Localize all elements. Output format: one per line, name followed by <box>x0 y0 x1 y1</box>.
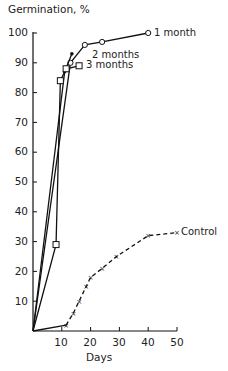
y-tick-label: 20 <box>4 266 28 277</box>
cross-marker-icon: × <box>174 229 180 237</box>
x-axis-label: Days <box>86 352 112 363</box>
y-tick-label: 40 <box>4 206 28 217</box>
circle-marker-icon <box>82 42 87 47</box>
cross-marker-icon: × <box>114 253 120 261</box>
cross-marker-icon: × <box>99 265 105 273</box>
square-marker-icon <box>76 63 82 69</box>
x-tick-label: 10 <box>51 337 71 348</box>
y-tick-label: 50 <box>4 176 28 187</box>
x-tick-label: 40 <box>138 337 158 348</box>
y-tick-label: 10 <box>4 296 28 307</box>
y-tick-label: 30 <box>4 236 28 247</box>
cross-marker-icon: × <box>88 274 94 282</box>
cross-marker-icon: × <box>70 310 76 318</box>
series-label-3-months: 3 months <box>86 60 133 70</box>
series-label-control: Control <box>181 227 217 237</box>
dot-marker-icon <box>70 52 74 56</box>
series-label-1-month: 1 month <box>154 28 196 38</box>
germination-chart: ××××××××× Germination, % 100 90 80 70 60… <box>0 0 228 371</box>
y-tick-label: 70 <box>4 117 28 128</box>
cross-marker-icon: × <box>83 283 89 291</box>
y-tick-label: 90 <box>4 57 28 68</box>
square-marker-icon <box>57 78 63 84</box>
square-marker-icon <box>63 66 69 72</box>
circle-marker-icon <box>146 30 151 35</box>
series-line-control <box>66 233 177 325</box>
x-tick-label: 30 <box>109 337 129 348</box>
y-tick-label: 80 <box>4 87 28 98</box>
cross-marker-icon: × <box>76 298 82 306</box>
x-tick-label: 50 <box>167 337 187 348</box>
series-line-control <box>33 325 66 331</box>
y-tick-label: 100 <box>4 27 28 38</box>
y-tick-label: 60 <box>4 146 28 157</box>
x-tick-label: 20 <box>80 337 100 348</box>
series-line-1-month <box>33 33 148 331</box>
y-axis-label: Germination, % <box>8 4 90 15</box>
series-line-3-months <box>33 66 79 331</box>
square-marker-icon <box>53 242 59 248</box>
cross-marker-icon: × <box>145 232 151 240</box>
circle-marker-icon <box>100 39 105 44</box>
cross-marker-icon: × <box>63 322 69 330</box>
